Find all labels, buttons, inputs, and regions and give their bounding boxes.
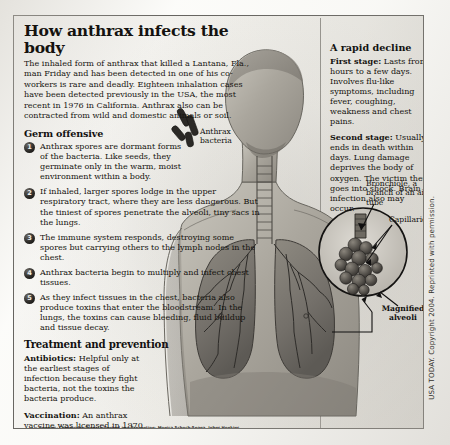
step-text: The immune system responds, destroying s… bbox=[40, 233, 255, 262]
page-title: How anthrax infects the body bbox=[24, 23, 266, 56]
column-divider bbox=[320, 18, 321, 428]
callout-anthrax-bacteria: Anthrax bacteria bbox=[200, 127, 248, 146]
step-text: Anthrax spores are dormant forms of the … bbox=[40, 142, 181, 182]
step-text: If inhaled, larger spores lodge in the u… bbox=[40, 187, 260, 227]
second-stage-label: Second stage: bbox=[330, 132, 393, 142]
list-item: 5 As they infect tissues in the chest, b… bbox=[24, 293, 250, 334]
leader-arrowheads bbox=[358, 223, 382, 303]
step-text: As they infect tissues in the chest, bac… bbox=[40, 293, 245, 333]
infographic-frame: How anthrax infects the body The inhaled… bbox=[13, 15, 424, 429]
list-item: 4 Anthrax bacteria begin to multiply and… bbox=[24, 268, 262, 288]
antibiotics-label: Antibiotics: bbox=[24, 353, 76, 363]
sources-line: Sources: Centers for Disease Control and… bbox=[39, 425, 254, 429]
step-number-badge: 2 bbox=[24, 188, 35, 199]
bronchial-tree-left bbox=[274, 244, 332, 368]
step-number-badge: 4 bbox=[24, 268, 35, 279]
left-column: How anthrax infects the body The inhaled… bbox=[24, 23, 266, 429]
callout-capillaries: Capillaries bbox=[389, 215, 424, 224]
section-heading-treatment: Treatment and prevention bbox=[24, 338, 266, 350]
section-heading-rapid-decline: A rapid decline bbox=[330, 42, 424, 53]
step-number-badge: 1 bbox=[24, 142, 35, 153]
callout-magnified-alveoli: Magnified alveoli bbox=[374, 304, 424, 323]
list-item: 2 If inhaled, larger spores lodge in the… bbox=[24, 187, 262, 228]
deck-paragraph: The inhaled form of anthrax that killed … bbox=[24, 59, 252, 122]
step-number-badge: 5 bbox=[24, 293, 35, 304]
list-item: 3 The immune system responds, destroying… bbox=[24, 233, 262, 264]
first-stage-text: Lasts from hours to a few days. Involves… bbox=[330, 57, 424, 126]
germ-offensive-steps: 1 Anthrax spores are dormant forms of th… bbox=[24, 142, 266, 334]
list-item: 1 Anthrax spores are dormant forms of th… bbox=[24, 142, 188, 183]
callout-bronchiole: Bronchiole, a branch of an air tube bbox=[366, 179, 424, 207]
antibiotics-paragraph: Antibiotics: Helpful only at the earlies… bbox=[24, 353, 146, 405]
first-stage-paragraph: First stage: Lasts from hours to a few d… bbox=[330, 56, 424, 127]
alveoli-cluster bbox=[335, 238, 382, 295]
copyright-notice: USA TODAY. Copyright 2004. Reprinted wit… bbox=[427, 196, 436, 400]
anthrax-infographic: How anthrax infects the body The inhaled… bbox=[0, 0, 450, 445]
step-text: Anthrax bacteria begin to multiply and i… bbox=[40, 268, 249, 287]
vaccination-label: Vaccination: bbox=[24, 410, 80, 420]
first-stage-label: First stage: bbox=[330, 56, 381, 66]
step-number-badge: 3 bbox=[24, 233, 35, 244]
